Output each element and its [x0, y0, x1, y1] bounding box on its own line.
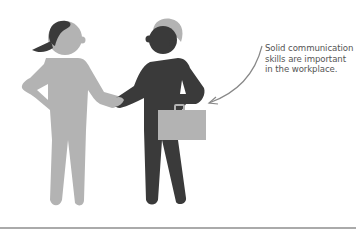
- baseline-divider: [0, 227, 356, 229]
- briefcase-icon: [158, 105, 206, 140]
- handshake-illustration: [0, 0, 356, 243]
- callout-arrow: [209, 46, 262, 104]
- callout-text: Solid communication skills are important…: [265, 43, 356, 75]
- callout-line-3: in the workplace.: [265, 64, 356, 75]
- callout-line-1: Solid communication: [265, 43, 356, 54]
- woman-figure: [22, 21, 119, 206]
- callout-line-2: skills are important: [265, 54, 356, 65]
